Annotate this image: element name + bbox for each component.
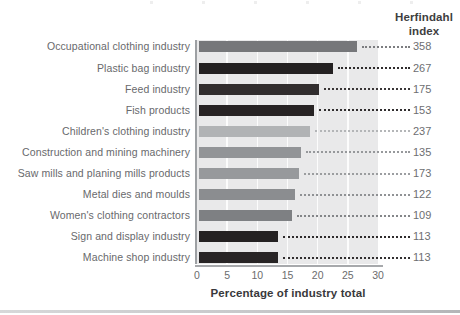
herfindahl-value: 237 [413, 121, 453, 142]
bar [199, 252, 278, 263]
herfindahl-value: 267 [413, 58, 453, 79]
bar [199, 210, 293, 221]
bar-row: Metal dies and moulds 122 [0, 184, 460, 205]
bar-row: Feed industry 175 [0, 79, 460, 100]
category-label: Children's clothing industry [0, 121, 190, 142]
category-label: Women's clothing contractors [0, 205, 190, 226]
bar-row: Fish products 153 [0, 100, 460, 121]
category-label: Saw mills and planing mills products [0, 163, 190, 184]
leader-dotted-line [283, 257, 410, 259]
bar [199, 41, 357, 52]
leader-dotted-line [338, 67, 410, 69]
herfindahl-value: 109 [413, 205, 453, 226]
bar [199, 126, 310, 137]
bar-row: Construction and mining machinery 135 [0, 142, 460, 163]
category-label: Metal dies and moulds [0, 184, 190, 205]
leader-dotted-line [319, 109, 410, 111]
category-label: Plastic bag industry [0, 58, 190, 79]
bar [199, 147, 302, 158]
bar [199, 231, 279, 242]
x-tick-label: 30 [372, 269, 384, 282]
leader-dotted-line [297, 215, 410, 217]
herfindahl-value: 175 [413, 79, 453, 100]
herfindahl-value: 173 [413, 163, 453, 184]
bottom-divider [0, 310, 460, 313]
x-tick-label: 0 [194, 269, 200, 282]
leader-dotted-line [362, 46, 410, 48]
leader-dotted-line [304, 173, 410, 175]
category-label: Machine shop industry [0, 247, 190, 268]
x-tick-label: 25 [342, 269, 354, 282]
leader-dotted-line [315, 130, 410, 132]
x-tick-label: 5 [224, 269, 230, 282]
leader-dotted-line [283, 236, 410, 238]
bar [199, 105, 314, 116]
bar-row: Women's clothing contractors 109 [0, 205, 460, 226]
bar [199, 84, 320, 95]
category-label: Sign and display industry [0, 226, 190, 247]
x-axis-title: Percentage of industry total [188, 287, 388, 299]
leader-dotted-line [300, 194, 410, 196]
bar-row: Machine shop industry 113 [0, 247, 460, 268]
bar [199, 63, 334, 74]
category-label: Feed industry [0, 79, 190, 100]
herfindahl-value: 135 [413, 142, 453, 163]
bar-row: Sign and display industry 113 [0, 226, 460, 247]
x-tick-label: 15 [282, 269, 294, 282]
herfindahl-value: 113 [413, 226, 453, 247]
bar [199, 189, 296, 200]
category-label: Occupational clothing industry [0, 36, 190, 57]
herfindahl-value: 113 [413, 247, 453, 268]
herfindahl-bar-chart: Herfindahl index Occupational clothing i… [0, 0, 460, 315]
leader-dotted-line [324, 88, 410, 90]
category-label: Construction and mining machinery [0, 142, 190, 163]
bar-row: Plastic bag industry 267 [0, 58, 460, 79]
herfindahl-value: 153 [413, 100, 453, 121]
bar-row: Children's clothing industry 237 [0, 121, 460, 142]
category-label: Fish products [0, 100, 190, 121]
bar-row: Saw mills and planing mills products 173 [0, 163, 460, 184]
x-tick-label: 10 [251, 269, 263, 282]
bar-row: Occupational clothing industry 358 [0, 36, 460, 57]
leader-dotted-line [306, 151, 410, 153]
bar [199, 168, 299, 179]
herfindahl-value: 358 [413, 36, 453, 57]
x-tick-label: 20 [312, 269, 324, 282]
herfindahl-value: 122 [413, 184, 453, 205]
